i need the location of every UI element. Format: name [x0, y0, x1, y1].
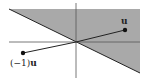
vector-neg-u [23, 42, 76, 53]
point-neg-u [21, 51, 25, 55]
point-u [123, 28, 127, 32]
label-neg-u: (−1)u [10, 58, 37, 68]
label-neg-u-vec: u [30, 58, 37, 68]
label-u: u [121, 16, 128, 26]
half-plane-diagram: u (−1)u [0, 0, 149, 81]
label-neg-u-prefix: (−1) [10, 58, 30, 68]
